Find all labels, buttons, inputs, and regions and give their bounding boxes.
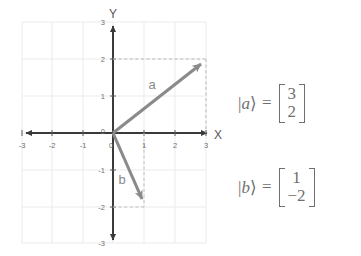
ket-a-row-2: 2: [286, 103, 299, 121]
y-axis-label: Y: [109, 7, 117, 21]
x-tick-label-0: 0: [109, 141, 113, 150]
vector-a-arrow: [113, 64, 201, 133]
y-tick-label-0: 0: [101, 127, 105, 136]
x-tick-label--2: -2: [49, 141, 56, 150]
ket-a-symbol: a: [241, 94, 250, 113]
bracket-left-icon: [279, 168, 285, 207]
ket-b-equals: =: [262, 177, 272, 197]
cartesian-plot: -3 -2 -1 0 1 2 3 3 2 1 0 -1 -2 -3 X Y a …: [0, 0, 361, 256]
x-tick-label-1: 1: [142, 141, 146, 150]
vector-a-label: a: [148, 77, 156, 92]
ket-b-symbol: b: [241, 178, 250, 197]
vector-b-label: b: [118, 172, 125, 187]
y-tick-label-1: 1: [101, 92, 105, 101]
axis-lines: [26, 26, 207, 240]
ket-b-row-2: −2: [286, 187, 308, 205]
ket-b-column-vector: 1 −2: [279, 168, 315, 207]
equation-ket-a: |a⟩ = 3 2: [238, 84, 305, 123]
y-tick-label--1: -1: [98, 166, 105, 175]
bracket-left-icon: [279, 84, 285, 123]
equation-ket-b: |b⟩ = 1 −2: [238, 168, 315, 207]
vector-diagram-figure: -3 -2 -1 0 1 2 3 3 2 1 0 -1 -2 -3 X Y a …: [0, 0, 361, 256]
y-tick-label-2: 2: [101, 55, 105, 64]
y-tick-label--3: -3: [98, 239, 105, 248]
bracket-right-icon: [309, 168, 315, 207]
ket-a-equals: =: [262, 93, 272, 113]
x-tick-label--3: -3: [19, 141, 26, 150]
bracket-right-icon: [299, 84, 305, 123]
ket-b-angle: ⟩: [250, 178, 257, 197]
ket-b-row-1: 1: [290, 169, 303, 187]
x-axis-label: X: [214, 128, 222, 142]
ket-b-notation: |b⟩: [238, 177, 257, 198]
x-tick-label--1: -1: [80, 141, 87, 150]
ket-a-column-vector: 3 2: [279, 84, 306, 123]
x-tick-label-2: 2: [173, 141, 177, 150]
ket-a-notation: |a⟩: [238, 93, 257, 114]
vector-b-arrow: [113, 133, 142, 199]
y-tick-label-3: 3: [101, 18, 105, 27]
ket-a-row-1: 3: [286, 85, 299, 103]
x-tick-label-3: 3: [204, 141, 208, 150]
y-tick-label--2: -2: [98, 203, 105, 212]
ket-a-angle: ⟩: [250, 94, 257, 113]
